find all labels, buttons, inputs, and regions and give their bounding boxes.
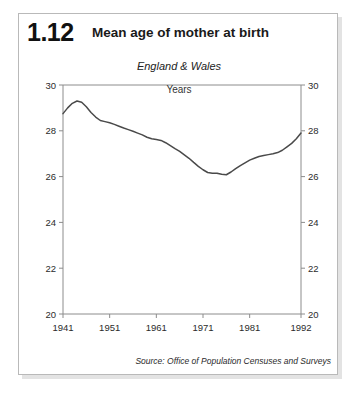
y-tick-label-right: 20 [308, 309, 319, 320]
source-note: Source: Office of Population Censuses an… [135, 356, 331, 366]
y-axis-labels-left: 202224262830 [45, 80, 56, 320]
x-tick-label: 1971 [192, 322, 213, 333]
chart-units-label: Years [19, 84, 339, 95]
y-tick-label-right: 22 [308, 263, 319, 274]
x-tick-label: 1951 [99, 322, 120, 333]
y-tick-label: 28 [45, 125, 56, 136]
x-tick-label: 1981 [239, 322, 260, 333]
y-tick-label: 26 [45, 171, 56, 182]
y-tick-label-right: 24 [308, 217, 319, 228]
series-path [63, 101, 301, 175]
chart-subtitle: England & Wales [19, 60, 339, 72]
x-axis-labels: 194119511961197119811992 [52, 322, 311, 333]
y-tick-label: 24 [45, 217, 56, 228]
x-tick-label: 1992 [290, 322, 311, 333]
y-tick-label: 22 [45, 263, 56, 274]
page-root: 1.12 Mean age of mother at birth England… [0, 0, 351, 399]
y-tick-label-right: 28 [308, 125, 319, 136]
chart-tick-marks [59, 85, 305, 318]
y-axis-labels-right: 202224262830 [308, 80, 319, 320]
data-series-line [63, 101, 301, 175]
y-tick-label: 20 [45, 309, 56, 320]
chart-container: England & Wales Years 202224262830 20222… [19, 14, 339, 376]
x-tick-label: 1941 [52, 322, 73, 333]
figure-card: 1.12 Mean age of mother at birth England… [18, 13, 338, 375]
x-tick-label: 1961 [146, 322, 167, 333]
y-tick-label-right: 26 [308, 171, 319, 182]
